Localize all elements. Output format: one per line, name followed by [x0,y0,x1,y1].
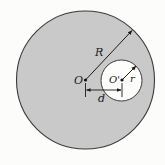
disk-with-hole-figure: R O O' r d [0,0,165,165]
diagram: R O O' r d [0,0,165,165]
label-d: d [98,92,105,105]
label-O: O [74,74,83,87]
center-O-prime-dot [120,78,123,81]
label-O-prime: O' [109,74,120,85]
center-O-dot [84,78,87,81]
label-R: R [94,46,103,59]
